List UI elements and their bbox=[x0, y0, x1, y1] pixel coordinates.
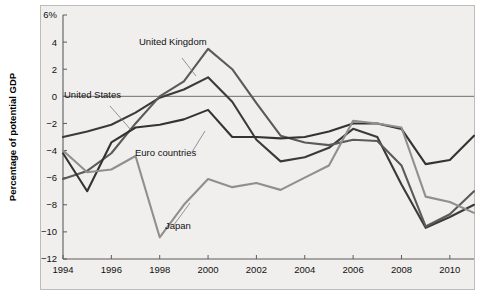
y-tick-label: −6 bbox=[46, 172, 57, 183]
x-tick-label: 2010 bbox=[439, 264, 460, 275]
y-tick-label: −12 bbox=[41, 253, 57, 264]
line-chart: 6%420−2−4−6−8−10−12 19941996199820002002… bbox=[0, 0, 480, 298]
series-label-united-states: United States bbox=[64, 89, 121, 100]
x-tick-label: 1996 bbox=[101, 264, 122, 275]
y-tick-label: −4 bbox=[46, 145, 57, 156]
x-tick-label: 2008 bbox=[391, 264, 412, 275]
x-tick-label: 2006 bbox=[343, 264, 364, 275]
x-tick-label: 2002 bbox=[246, 264, 267, 275]
series-label-united-kingdom: United Kingdom bbox=[139, 36, 207, 47]
x-tick-label: 1994 bbox=[52, 264, 73, 275]
x-tick-label: 2000 bbox=[197, 264, 218, 275]
y-tick-label: −2 bbox=[46, 118, 57, 129]
series-line-united-states bbox=[63, 77, 474, 227]
chart-page: 6%420−2−4−6−8−10−12 19941996199820002002… bbox=[0, 0, 480, 298]
y-tick-label: 4 bbox=[52, 37, 57, 48]
series-annotations: United KingdomUnited StatesEuro countrie… bbox=[64, 36, 207, 231]
y-tick-label: 6% bbox=[43, 9, 57, 20]
leader-line bbox=[110, 106, 131, 130]
series-label-euro-countries: Euro countries bbox=[135, 147, 197, 158]
y-axis-title: Percentage of potential GDP bbox=[7, 72, 18, 201]
y-tick-label: 0 bbox=[52, 91, 57, 102]
series-label-japan: Japan bbox=[165, 220, 191, 231]
y-tick-label: −8 bbox=[46, 199, 57, 210]
y-axis-title-text: Percentage of potential GDP bbox=[7, 72, 18, 201]
leader-line bbox=[192, 131, 205, 152]
y-tick-label: −10 bbox=[41, 226, 57, 237]
x-tick-label: 2004 bbox=[294, 264, 315, 275]
data-series bbox=[63, 49, 474, 237]
x-axis-ticks: 199419961998200020022004200620082010 bbox=[52, 255, 460, 275]
x-tick-label: 1998 bbox=[149, 264, 170, 275]
y-tick-label: 2 bbox=[52, 64, 57, 75]
